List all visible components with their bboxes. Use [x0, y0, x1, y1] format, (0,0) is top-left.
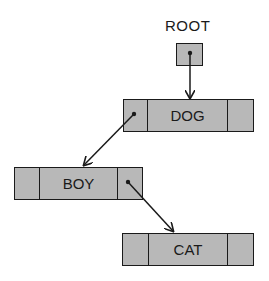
tree-node-cat: CAT [122, 233, 254, 266]
right-pointer-cell [227, 234, 253, 265]
right-pointer-cell [117, 168, 142, 199]
root-label: ROOT [165, 17, 210, 34]
tree-diagram: ROOT DOG BOY CAT [0, 0, 269, 281]
left-pointer-cell [15, 168, 39, 199]
node-value: CAT [148, 234, 227, 265]
node-value: BOY [39, 168, 117, 199]
node-value: DOG [147, 100, 227, 131]
tree-node-dog: DOG [123, 99, 254, 132]
tree-node-boy: BOY [14, 167, 143, 200]
left-pointer-cell [124, 100, 147, 131]
left-pointer-cell [123, 234, 148, 265]
right-pointer-cell [227, 100, 253, 131]
root-pointer-box [176, 43, 203, 66]
